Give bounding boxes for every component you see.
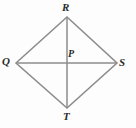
center-point-label-p: P: [68, 48, 74, 59]
geometry-figure: R Q S T P: [0, 0, 136, 128]
vertex-label-s: S: [119, 57, 125, 68]
vertex-label-t: T: [63, 111, 70, 122]
rhombus-diagram-svg: [0, 0, 136, 128]
vertex-label-q: Q: [2, 56, 10, 67]
vertex-label-r: R: [62, 2, 69, 13]
